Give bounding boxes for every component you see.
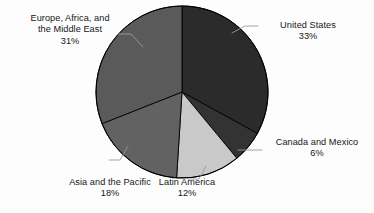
slice-value-label: 6% bbox=[262, 148, 372, 159]
slice-label-text: United States bbox=[280, 20, 336, 30]
slice-value-label: 33% bbox=[258, 31, 358, 42]
slice-label-text-line1: Europe, Africa, and bbox=[30, 13, 109, 23]
slice-value-label: 18% bbox=[50, 188, 170, 199]
slice-label-text-line2: the Middle East bbox=[38, 24, 102, 34]
pie-chart-figure: Europe, Africa, and the Middle East 31% … bbox=[0, 0, 374, 213]
slice-label-asia-and-the-pacific: Asia and the Pacific 18% bbox=[50, 177, 170, 200]
slice-value-label: 31% bbox=[6, 36, 134, 47]
slice-label-united-states: United States 33% bbox=[258, 20, 358, 43]
slice-label-text: Asia and the Pacific bbox=[69, 177, 151, 187]
slice-label-europe-africa-middle-east: Europe, Africa, and the Middle East 31% bbox=[6, 13, 134, 47]
slice-label-text: Canada and Mexico bbox=[276, 137, 359, 147]
slice-label-canada-and-mexico: Canada and Mexico 6% bbox=[262, 137, 372, 160]
